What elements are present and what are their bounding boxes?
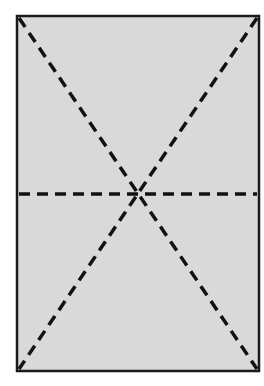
rectangle-diagonals-diagram (0, 0, 264, 386)
